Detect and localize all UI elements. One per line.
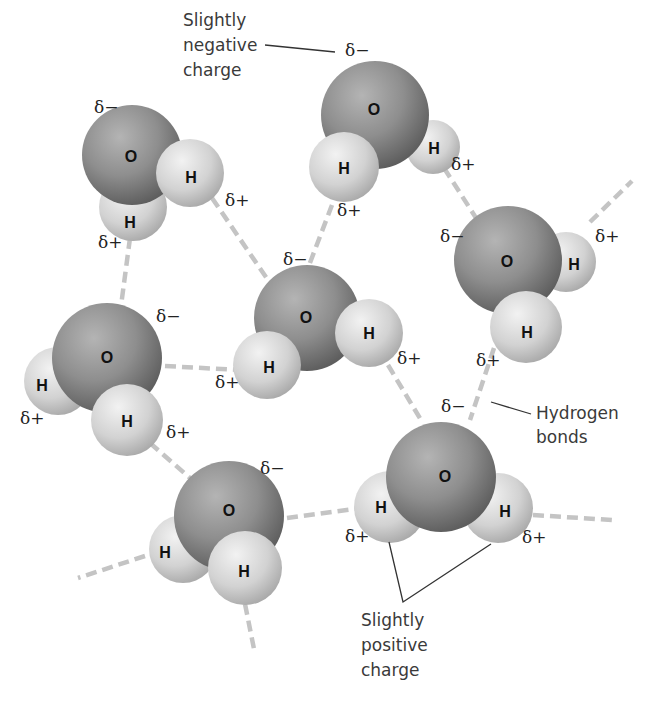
oxygen-symbol: O [300, 309, 312, 326]
oxygen-symbol: O [501, 253, 513, 270]
charge-positive: δ+ [98, 232, 122, 252]
oxygen-symbol: O [368, 101, 380, 118]
hydrogen-symbol: H [521, 324, 533, 341]
charge-positive: δ+ [166, 422, 190, 442]
hbond-topcenter-right [444, 168, 478, 221]
charge-negative: δ− [345, 40, 369, 60]
hydrogen-symbol: H [159, 544, 171, 561]
hydrogen-symbol: H [121, 413, 133, 430]
molecule-bottom-left: O H H δ− [149, 458, 284, 605]
oxygen-symbol: O [125, 148, 137, 165]
positive-label-line3: charge [361, 660, 419, 680]
hydrogen-symbol: H [428, 140, 440, 157]
charge-positive: δ+ [595, 226, 619, 246]
hbond-bottomleft-outer-left [78, 556, 145, 578]
charge-positive: δ+ [397, 348, 421, 368]
hydrogen-symbol: H [263, 359, 275, 376]
hydrogen-symbol: H [568, 256, 580, 273]
annotation-hydrogen-bonds: Hydrogen bonds [491, 402, 619, 447]
negative-label-line1: Slightly [183, 10, 246, 30]
charge-negative: δ− [156, 306, 180, 326]
negative-label-line2: negative [183, 35, 257, 55]
hbond-left-center [165, 366, 240, 370]
hbond-topcenter-center [308, 205, 332, 268]
hbond-bottomright-outer [533, 515, 612, 520]
hbonds-label-line2: bonds [536, 427, 588, 447]
oxygen-symbol: O [101, 349, 113, 366]
hbond-center-bottomright [388, 365, 421, 420]
hydrogen-symbol: H [124, 214, 136, 231]
positive-label-line1: Slightly [361, 610, 424, 630]
oxygen-symbol: O [223, 502, 235, 519]
hydrogen-symbol: H [36, 377, 48, 394]
hbonds-label-line1: Hydrogen [536, 403, 619, 423]
charge-positive: δ+ [522, 527, 546, 547]
hbond-topleft-center [212, 198, 270, 283]
charge-positive: δ+ [20, 408, 44, 428]
molecule-top-left: O H H δ− δ+ δ+ [82, 97, 249, 252]
charge-positive: δ+ [476, 350, 500, 370]
negative-label-line3: charge [183, 60, 241, 80]
charge-positive: δ+ [215, 372, 239, 392]
hydrogen-symbol: H [375, 499, 387, 516]
charge-positive: δ+ [345, 526, 369, 546]
hydrogen-symbol: H [238, 563, 250, 580]
hbond-left-bottomleft [150, 443, 190, 478]
annotation-negative-charge: Slightly negative charge [183, 10, 335, 80]
molecule-center: O H H δ− δ+ δ+ [215, 249, 421, 399]
hbond-bottomleft-bottomright [287, 508, 361, 518]
hydrogen-symbol: H [338, 160, 350, 177]
negative-leader-line [265, 45, 335, 52]
hydrogen-symbol: H [185, 169, 197, 186]
molecule-top-center: O H H δ− δ+ δ+ [309, 40, 475, 220]
molecule-left: O H H δ− δ+ δ+ [20, 303, 190, 456]
charge-negative: δ− [283, 249, 307, 269]
hbonds-leader-line [491, 402, 531, 414]
charge-negative: δ− [440, 226, 464, 246]
charge-negative: δ− [94, 97, 118, 117]
hbond-right-outer [590, 181, 632, 222]
annotation-positive-charge: Slightly positive charge [361, 542, 491, 680]
molecule-right: O H H δ− δ+ δ+ [440, 206, 619, 370]
water-hydrogen-bond-diagram: O H H δ− δ+ δ+ O H H δ− δ+ δ+ O H H δ− δ… [0, 0, 647, 705]
hydrogen-symbol: H [363, 325, 375, 342]
hbond-bottomleft-outer-down [245, 604, 255, 654]
positive-leader-line [389, 542, 491, 602]
charge-negative: δ− [441, 396, 465, 416]
hydrogen-symbol: H [499, 503, 511, 520]
molecule-bottom-right: O H H δ− δ+ δ+ [345, 396, 546, 547]
charge-negative: δ− [260, 458, 284, 478]
positive-label-line2: positive [361, 635, 428, 655]
charge-positive: δ+ [451, 154, 475, 174]
charge-positive: δ+ [225, 190, 249, 210]
oxygen-symbol: O [439, 468, 451, 485]
charge-positive: δ+ [337, 200, 361, 220]
